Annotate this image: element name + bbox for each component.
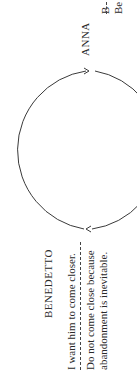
node-benedetto-line-2: Do not come close because [83,250,97,370]
node-benedetto-name: BENEDETTO [42,249,54,318]
arrowhead-icon [86,226,91,232]
node-anna-line-1: B [98,7,112,14]
node-benedetto-line-3: abandonment is inevitable. [96,252,110,370]
node-benedetto-divider [80,242,81,370]
node-anna-name: ANNA [79,22,91,56]
node-benedetto-line-1: I want him to come closer. [64,253,78,370]
node-anna-divider [106,2,107,14]
cycle-arc-right [92,71,137,229]
cycle-arc-left [18,71,86,229]
node-anna-line-2: Be [111,2,125,14]
